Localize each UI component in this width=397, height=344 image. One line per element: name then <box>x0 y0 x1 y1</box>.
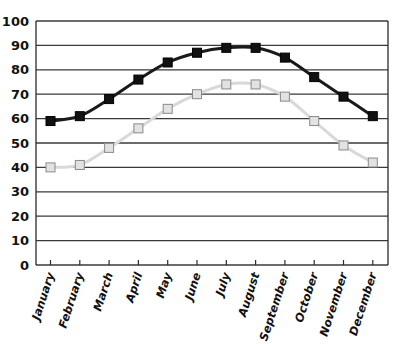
y-tick-label: 20 <box>11 209 29 224</box>
data-point-marker <box>310 117 319 126</box>
data-point-marker <box>368 158 377 167</box>
x-axis <box>51 260 373 265</box>
x-tick-label: January <box>28 270 57 324</box>
y-tick-label: 80 <box>11 62 29 77</box>
data-point-marker <box>193 48 202 57</box>
data-point-marker <box>193 90 202 99</box>
y-tick-label: 30 <box>11 184 29 199</box>
data-point-marker <box>46 117 55 126</box>
data-point-marker <box>280 53 289 62</box>
data-point-marker <box>310 73 319 82</box>
data-point-marker <box>163 104 172 113</box>
data-point-marker <box>251 43 260 52</box>
series-high-line <box>46 43 377 125</box>
y-tick-label: 50 <box>11 136 29 151</box>
x-tick-label: February <box>55 270 86 330</box>
y-tick-label: 100 <box>2 14 29 29</box>
data-point-marker <box>105 143 114 152</box>
series-path <box>51 83 373 167</box>
x-tick-label: April <box>122 270 145 305</box>
data-point-marker <box>251 80 260 89</box>
y-axis-labels: 0102030405060708090100 <box>2 14 29 273</box>
x-tick-label: June <box>181 270 204 303</box>
data-point-marker <box>222 80 231 89</box>
x-tick-label: November <box>316 269 350 338</box>
y-tick-label: 40 <box>11 160 29 175</box>
data-point-marker <box>105 95 114 104</box>
y-tick-label: 0 <box>20 258 29 273</box>
x-axis-labels: JanuaryFebruaryMarchAprilMayJuneJulyAugu… <box>28 269 380 342</box>
data-point-marker <box>75 112 84 121</box>
x-tick-label: October <box>292 269 322 324</box>
data-point-marker <box>280 92 289 101</box>
x-tick-label: July <box>212 270 233 299</box>
data-point-marker <box>339 141 348 150</box>
data-point-marker <box>222 43 231 52</box>
x-tick-label: September <box>256 269 292 342</box>
y-tick-label: 90 <box>11 38 29 53</box>
gridlines <box>36 21 388 265</box>
data-point-marker <box>134 75 143 84</box>
y-tick-label: 70 <box>11 87 29 102</box>
data-point-marker <box>163 58 172 67</box>
x-tick-label: December <box>346 269 380 337</box>
x-tick-label: March <box>90 271 116 313</box>
x-tick-label: May <box>153 270 175 300</box>
y-tick-label: 10 <box>11 233 29 248</box>
data-point-marker <box>75 160 84 169</box>
data-point-marker <box>134 124 143 133</box>
series-path <box>51 47 373 121</box>
x-tick-label: August <box>235 270 263 319</box>
data-point-marker <box>339 92 348 101</box>
data-point-marker <box>46 163 55 172</box>
y-tick-label: 60 <box>11 111 29 126</box>
line-chart: 0102030405060708090100 JanuaryFebruaryMa… <box>0 0 397 344</box>
data-point-marker <box>368 112 377 121</box>
